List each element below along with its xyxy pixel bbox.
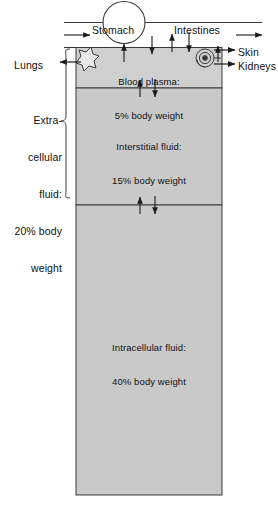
interstitial-fluid-label-line-2: 15% body weight <box>76 175 222 186</box>
ecf-label-line-4: 20% body <box>0 225 62 237</box>
extracellular-fluid-label: Extra- cellular fluid: 20% body weight <box>0 89 62 299</box>
skin-label: Skin <box>238 46 259 58</box>
lungs-label: Lungs <box>14 59 43 71</box>
extracellular-fluid-brace <box>61 49 70 198</box>
kidneys-label: Kidneys <box>238 60 276 72</box>
body-fluid-compartments-diagram: Stomach Intestines Skin Kidneys Lungs Ex… <box>0 0 278 507</box>
intracellular-fluid-label: Intracellular fluid: 40% body weight <box>76 320 222 410</box>
interstitial-fluid-label: Interstitial fluid: 15% body weight <box>76 119 222 209</box>
ecf-label-line-5: weight <box>0 262 62 274</box>
intracellular-fluid-label-line-1: Intracellular fluid: <box>76 342 222 353</box>
interstitial-fluid-label-line-1: Interstitial fluid: <box>76 141 222 152</box>
gi-tract-upper-wall <box>64 1 262 22</box>
intestines-label: Intestines <box>174 24 220 36</box>
ecf-label-line-1: Extra- <box>0 114 62 126</box>
ecf-label-line-2: cellular <box>0 151 62 163</box>
blood-plasma-label-line-1: Blood plasma: <box>76 76 222 87</box>
ecf-label-line-3: fluid: <box>0 188 62 200</box>
stomach-label: Stomach <box>92 24 134 36</box>
intracellular-fluid-label-line-2: 40% body weight <box>76 376 222 387</box>
